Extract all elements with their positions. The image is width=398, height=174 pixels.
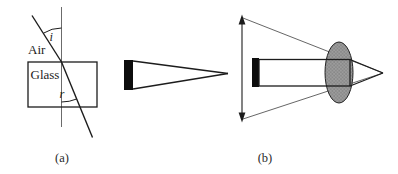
object-bar <box>124 60 133 90</box>
angle-r-label: r <box>60 87 65 101</box>
refracted-ray <box>62 62 93 138</box>
air-label: Air <box>28 42 46 57</box>
panel-a-refraction-diagram: Air Glass i r (a) <box>28 7 97 165</box>
angle-i-label: i <box>50 30 54 44</box>
lens-ellipse <box>325 42 353 103</box>
optics-figure: Air Glass i r (a) <box>0 0 398 174</box>
sight-line-bottom <box>133 74 228 90</box>
converging-ray-bottom <box>350 73 383 86</box>
sight-line-top <box>133 61 228 74</box>
virtual-image-arrowhead-bottom <box>239 113 246 123</box>
virtual-image-arrowhead-top <box>239 15 246 25</box>
glass-label: Glass <box>31 67 60 82</box>
unaided-eye-cone <box>124 60 228 90</box>
panel-b-caption: (b) <box>258 151 273 165</box>
object-bar <box>252 58 259 87</box>
panel-a-caption: (a) <box>55 151 69 165</box>
virtual-image-ray-bottom <box>243 73 383 119</box>
panel-b-magnifier-diagram: (b) <box>239 15 383 166</box>
converging-ray-top <box>350 60 383 74</box>
optics-figure-svg: Air Glass i r (a) <box>0 0 398 174</box>
